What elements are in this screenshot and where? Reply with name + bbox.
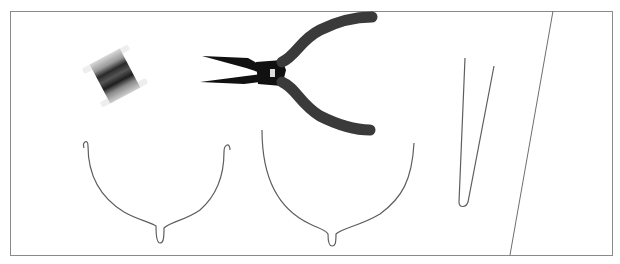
pliers (200, 17, 372, 130)
border-frame (11, 12, 613, 256)
illustration: Illustration of wire-working craft tools… (0, 0, 620, 264)
wire-frame-hooked (84, 142, 230, 243)
wire-spool (82, 44, 149, 107)
wire-frame-open (262, 130, 414, 246)
diagonal-edge-line (510, 11, 553, 255)
wire-hairpin (459, 58, 494, 207)
